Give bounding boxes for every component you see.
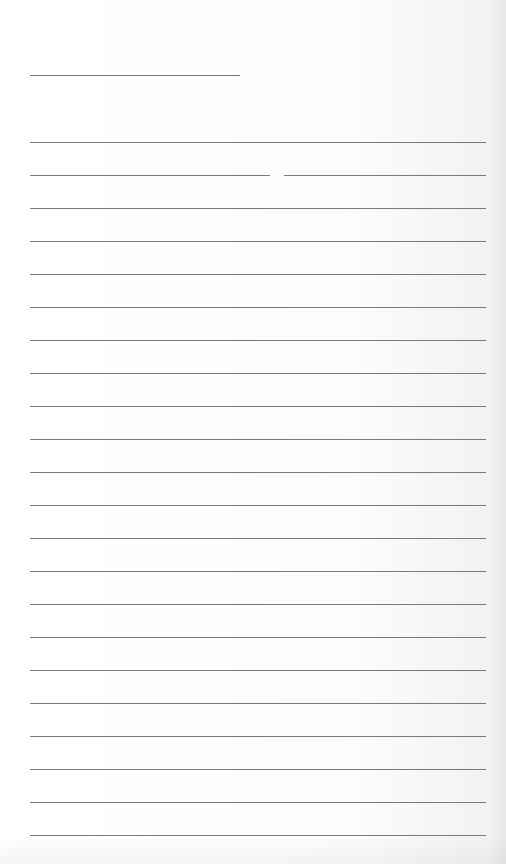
- writing-line-7: [30, 340, 486, 341]
- writing-line-21: [30, 802, 486, 803]
- writing-line-15: [30, 604, 486, 605]
- writing-line-5: [30, 274, 486, 275]
- writing-line-16: [30, 637, 486, 638]
- writing-line-17: [30, 670, 486, 671]
- lined-paper-page: [0, 0, 506, 864]
- writing-line-3: [30, 208, 486, 209]
- writing-line-12: [30, 505, 486, 506]
- writing-line-18: [30, 703, 486, 704]
- writing-line-4: [30, 241, 486, 242]
- writing-line-2-left: [30, 175, 270, 176]
- writing-line-19: [30, 736, 486, 737]
- writing-line-10: [30, 439, 486, 440]
- writing-line-22: [30, 835, 486, 836]
- writing-line-6: [30, 307, 486, 308]
- writing-line-11: [30, 472, 486, 473]
- title-line: [30, 75, 240, 76]
- writing-line-9: [30, 406, 486, 407]
- writing-line-14: [30, 571, 486, 572]
- writing-line-8: [30, 373, 486, 374]
- writing-line-13: [30, 538, 486, 539]
- writing-line-1: [30, 142, 486, 143]
- writing-line-2-right: [284, 175, 486, 176]
- writing-line-20: [30, 769, 486, 770]
